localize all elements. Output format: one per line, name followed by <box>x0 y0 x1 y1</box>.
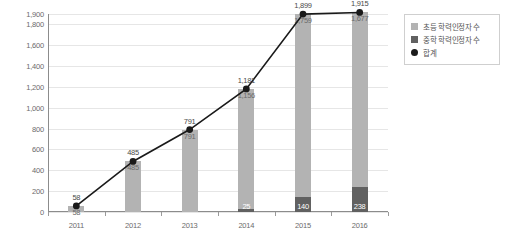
y-axis-tick-label: 1,800 <box>26 20 44 29</box>
legend-circle-icon <box>411 49 418 56</box>
legend-label: 중학 학력인정자 수 <box>423 34 480 45</box>
y-axis-tick-label: 1,900 <box>26 10 44 19</box>
y-axis-tick-label: 200 <box>32 187 44 196</box>
x-axis-tick-label: 2013 <box>182 221 198 230</box>
gridline <box>48 212 388 213</box>
y-axis-tick-label: 0 <box>40 208 44 217</box>
y-axis-labels: 02004006008001,0001,2001,4001,6001,8001,… <box>0 14 44 212</box>
total-line-marker[interactable] <box>356 9 363 16</box>
x-axis-tick-label: 2016 <box>352 221 368 230</box>
y-axis-tick-label: 600 <box>32 145 44 154</box>
total-line-marker[interactable] <box>243 86 250 93</box>
x-axis-tick-label: 2015 <box>295 221 311 230</box>
total-line-marker[interactable] <box>73 203 80 210</box>
legend-item[interactable]: 중학 학력인정자 수 <box>411 33 494 45</box>
total-value-label: 485 <box>127 148 139 157</box>
x-axis-tick-mark <box>388 212 389 216</box>
total-value-label: 1,915 <box>351 0 368 8</box>
x-axis-tick-label: 2012 <box>125 221 141 230</box>
total-value-label: 58 <box>72 193 80 202</box>
legend-label: 합계 <box>423 47 436 58</box>
legend-item[interactable]: 합계 <box>411 46 494 58</box>
total-line-marker[interactable] <box>130 158 137 165</box>
y-axis-tick-label: 1,600 <box>26 41 44 50</box>
legend-item[interactable]: 초등 학력인정자 수 <box>411 20 494 32</box>
total-line-series <box>48 14 388 212</box>
y-axis-tick-label: 400 <box>32 166 44 175</box>
total-value-label: 1,899 <box>294 1 311 10</box>
y-axis-tick-label: 1,000 <box>26 103 44 112</box>
total-value-label: 791 <box>184 117 196 126</box>
total-value-label: 1,181 <box>238 76 255 85</box>
legend-square-icon <box>411 36 418 43</box>
x-axis-tick-label: 2011 <box>69 221 84 230</box>
legend-square-icon <box>411 23 418 30</box>
y-axis-tick-label: 1,400 <box>26 62 44 71</box>
chart-legend: 초등 학력인정자 수중학 학력인정자 수합계 <box>404 14 500 65</box>
total-line-path <box>76 12 359 206</box>
y-axis-tick-label: 1,200 <box>26 82 44 91</box>
plot-area: 584857911,156251,7591401,677238 58485791… <box>48 14 388 212</box>
total-line-marker[interactable] <box>186 126 193 133</box>
total-line-marker[interactable] <box>300 11 307 18</box>
x-axis-tick-label: 2014 <box>238 221 254 230</box>
chart-container: 02004006008001,0001,2001,4001,6001,8001,… <box>0 0 508 240</box>
legend-label: 초등 학력인정자 수 <box>423 21 480 32</box>
y-axis-tick-label: 800 <box>32 124 44 133</box>
